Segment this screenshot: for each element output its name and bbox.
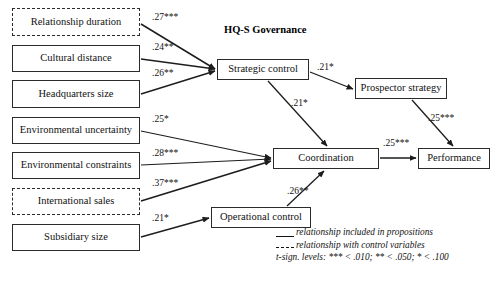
edge-strategic-control-to-coordination	[268, 81, 327, 146]
legend: relationship included in propositions re…	[276, 226, 449, 264]
node-environmental-constraints[interactable]: Environmental constraints	[12, 152, 140, 179]
edge-label-international-sales-to-coordination: .37***	[152, 178, 178, 188]
edge-label-relationship-duration-to-strategic-control: .27***	[152, 12, 178, 22]
edge-label-environmental-uncertainty-to-coordination: .25*	[152, 114, 169, 124]
legend-significance: t-sign. levels: *** < .010; ** < .050; *…	[276, 251, 449, 264]
node-cultural-distance[interactable]: Cultural distance	[12, 45, 140, 72]
node-environmental-uncertainty[interactable]: Environmental uncertainty	[12, 117, 140, 144]
edge-label-cultural-distance-to-strategic-control: .24**	[152, 42, 173, 52]
node-label: International sales	[38, 196, 115, 207]
node-label: Strategic control	[228, 64, 298, 75]
edge-label-coordination-to-performance: .25***	[383, 138, 409, 148]
legend-solid-text: relationship included in propositions	[296, 227, 433, 237]
node-coordination[interactable]: Coordination	[273, 148, 379, 169]
node-prospector-strategy[interactable]: Prospector strategy	[355, 78, 447, 99]
node-label: Environmental uncertainty	[20, 125, 132, 136]
edge-environmental-constraints-to-coordination	[141, 159, 271, 165]
node-label: Subsidiary size	[44, 232, 108, 243]
legend-significance-text: t-sign. levels: *** < .010; ** < .050; *…	[276, 252, 449, 262]
node-headquarters-size[interactable]: Headquarters size	[12, 80, 140, 108]
edge-prospector-strategy-to-performance	[412, 100, 453, 146]
node-operational-control[interactable]: Operational control	[211, 207, 311, 228]
node-label: Coordination	[298, 153, 353, 164]
legend-dashed-text: relationship with control variables	[296, 240, 425, 250]
node-label: Cultural distance	[40, 53, 111, 64]
page-title: HQ-S Governance	[224, 24, 307, 35]
legend-solid-line: relationship included in propositions	[276, 226, 449, 239]
edge-label-operational-control-to-coordination: .26**	[287, 186, 308, 196]
edge-label-headquarters-size-to-strategic-control: .26**	[152, 68, 173, 78]
node-performance[interactable]: Performance	[418, 148, 490, 169]
node-strategic-control[interactable]: Strategic control	[217, 59, 309, 80]
dashed-line-icon	[276, 239, 296, 252]
node-label: Relationship duration	[31, 17, 122, 28]
legend-dashed-line: relationship with control variables	[276, 239, 449, 252]
edge-label-strategic-control-to-prospector-strategy: .21*	[317, 62, 334, 72]
node-label: Operational control	[220, 212, 302, 223]
edge-label-strategic-control-to-coordination: .21*	[291, 98, 308, 108]
edge-strategic-control-to-prospector-strategy	[310, 72, 353, 89]
edge-label-environmental-constraints-to-coordination: .28***	[152, 148, 178, 158]
node-label: Environmental constraints	[21, 160, 132, 171]
node-relationship-duration[interactable]: Relationship duration	[12, 8, 140, 36]
node-international-sales[interactable]: International sales	[12, 188, 140, 215]
path-diagram: HQ-S Governance Relationship duration Cu…	[0, 0, 504, 283]
node-label: Prospector strategy	[361, 83, 442, 94]
edge-label-prospector-strategy-to-performance: .25***	[428, 113, 454, 123]
solid-line-icon	[276, 226, 296, 239]
node-label: Performance	[427, 153, 481, 164]
node-subsidiary-size[interactable]: Subsidiary size	[12, 224, 140, 251]
node-label: Headquarters size	[39, 89, 114, 100]
edge-label-subsidiary-size-to-operational-control: .21*	[152, 213, 169, 223]
